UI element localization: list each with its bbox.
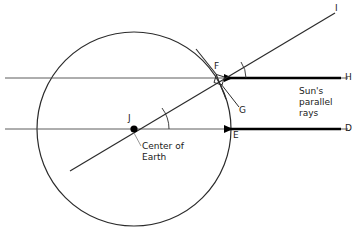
tangent-line-at-F: [196, 49, 216, 74]
point-label-D: D: [345, 123, 352, 134]
center-of-earth-line-1: Center of: [142, 141, 184, 152]
point-label-H: H: [345, 72, 352, 83]
g-leader-line: [221, 84, 239, 107]
center-of-earth-line-2: Earth: [142, 152, 184, 163]
point-label-J: J: [128, 113, 131, 124]
center-of-earth-annotation: Center of Earth: [142, 141, 184, 163]
angle-arc-F: [241, 62, 246, 78]
diagram-canvas: I H D F G E J Sun's parallel rays Center…: [0, 0, 363, 231]
sun-rays-line-1: Sun's: [299, 86, 332, 97]
radius-line-JI: [70, 13, 335, 171]
point-label-G: G: [239, 105, 246, 116]
center-point-J: [130, 125, 137, 132]
point-label-I: I: [335, 3, 338, 14]
center-of-earth-leader: [134, 133, 141, 146]
sun-rays-annotation: Sun's parallel rays: [299, 86, 332, 119]
point-label-E: E: [233, 130, 239, 141]
point-label-F: F: [214, 61, 219, 72]
sun-rays-line-3: rays: [299, 108, 332, 119]
sun-rays-line-2: parallel: [299, 97, 332, 108]
angle-arc-J: [162, 108, 169, 129]
